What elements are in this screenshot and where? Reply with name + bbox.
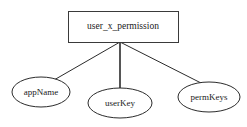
- er-diagram-svg: user_x_permission appName userKey permKe…: [0, 0, 247, 127]
- attribute-label-permkeys: permKeys: [191, 92, 228, 102]
- connector-entity-to-permkeys: [120, 42, 203, 84]
- connector-entity-to-appname: [54, 42, 120, 80]
- er-diagram-canvas: user_x_permission appName userKey permKe…: [0, 0, 247, 127]
- attribute-label-appname: appName: [24, 87, 58, 97]
- attribute-label-userkey: userKey: [105, 98, 135, 108]
- entity-label-user-x-permission: user_x_permission: [87, 21, 159, 31]
